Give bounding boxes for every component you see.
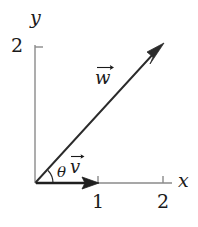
vector-w-label: w bbox=[95, 69, 110, 87]
vector-v-letter: v bbox=[70, 158, 80, 176]
vector-w-arrow-accent-icon bbox=[96, 63, 116, 70]
x-tick-label-2: 2 bbox=[157, 192, 169, 211]
vector-diagram-figure: y x 2 1 2 θ v w bbox=[0, 0, 198, 227]
x-tick-label-1: 1 bbox=[92, 192, 104, 211]
vector-w-arrowhead bbox=[147, 43, 164, 64]
angle-theta-label: θ bbox=[57, 165, 66, 180]
y-tick-label-2: 2 bbox=[11, 36, 23, 55]
vector-v-arrow-accent-icon bbox=[70, 152, 86, 159]
vector-v-label: v bbox=[70, 158, 80, 176]
x-axis-label: x bbox=[178, 171, 189, 190]
angle-arc bbox=[48, 171, 53, 184]
vector-w-letter: w bbox=[95, 69, 110, 87]
y-axis-label: y bbox=[30, 8, 41, 27]
